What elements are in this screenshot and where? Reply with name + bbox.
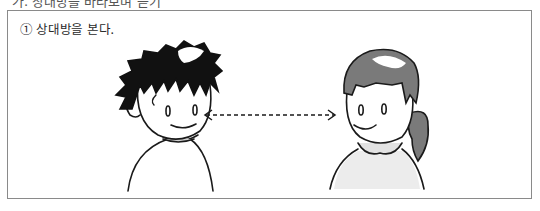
illustration-panel: ① 상대방을 본다. [7,10,532,199]
girl-figure [330,50,428,190]
cropped-heading-text: 가. 상대방을 바라보며 듣기 [12,0,161,10]
eye-contact-illustration [8,11,533,200]
dashed-double-arrow [205,110,335,120]
